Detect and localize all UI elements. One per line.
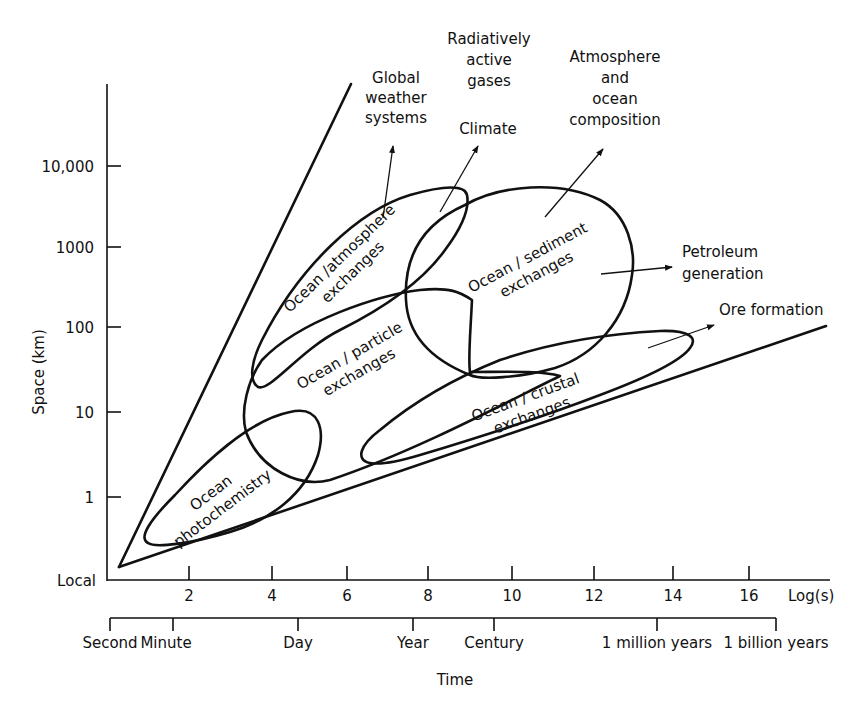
label-gases: gases bbox=[467, 72, 511, 90]
label-weather: weather bbox=[365, 89, 427, 107]
label-atmosphere-word: Atmosphere bbox=[570, 48, 661, 66]
x-tick-14: 14 bbox=[663, 587, 682, 605]
label-climate: Climate bbox=[459, 120, 517, 138]
time-tick-day: Day bbox=[283, 634, 313, 652]
region-labels: Ocean photochemistry Ocean /atmosphere e… bbox=[159, 201, 600, 551]
x-axis-unit-label: Log(s) bbox=[788, 587, 834, 605]
label-ore-formation: Ore formation bbox=[719, 301, 824, 319]
y-tick-1: 1 bbox=[84, 489, 94, 507]
time-tick-year: Year bbox=[396, 634, 430, 652]
x-tick-10: 10 bbox=[502, 587, 521, 605]
arrow-composition-icon bbox=[545, 149, 603, 217]
y-tick-1000: 1000 bbox=[56, 239, 94, 257]
time-tick-century: Century bbox=[464, 634, 524, 652]
label-generation: generation bbox=[682, 265, 764, 283]
label-composition: composition bbox=[569, 111, 660, 129]
y-tick-100: 100 bbox=[65, 319, 94, 337]
label-sediment: Ocean / sediment exchanges bbox=[465, 218, 599, 313]
scales-diagram: 10,000 1000 100 10 1 Local Space (km) 2 … bbox=[0, 0, 856, 710]
label-radiatively: Radiatively bbox=[447, 30, 530, 48]
label-ocean: ocean bbox=[592, 90, 637, 108]
time-tick-million-years: 1 million years bbox=[602, 634, 713, 652]
y-tick-local: Local bbox=[57, 572, 96, 590]
y-axis-label: Space (km) bbox=[30, 329, 48, 414]
label-crustal: Ocean / crustal exchanges bbox=[469, 369, 588, 443]
x-tick-4: 4 bbox=[267, 587, 277, 605]
x-tick-6: 6 bbox=[342, 587, 352, 605]
label-systems: systems bbox=[365, 109, 427, 127]
time-tick-billion-years: 1 billion years bbox=[723, 634, 828, 652]
time-tick-second: Second bbox=[82, 634, 137, 652]
arrow-ore-icon bbox=[648, 325, 714, 348]
arrow-petroleum-icon bbox=[601, 267, 672, 274]
time-tick-minute: Minute bbox=[140, 634, 191, 652]
region-ocean-particle bbox=[244, 289, 560, 482]
x-tick-12: 12 bbox=[584, 587, 603, 605]
x-tick-2: 2 bbox=[184, 587, 194, 605]
x-axis: 2 4 6 8 10 12 14 16 Log(s) bbox=[107, 566, 834, 605]
y-tick-10: 10 bbox=[75, 404, 94, 422]
time-axis-label: Time bbox=[436, 671, 474, 689]
label-and: and bbox=[601, 69, 629, 87]
y-axis: 10,000 1000 100 10 1 Local Space (km) bbox=[30, 84, 121, 590]
label-petroleum: Petroleum bbox=[682, 243, 758, 261]
label-active: active bbox=[466, 51, 512, 69]
x-tick-16: 16 bbox=[739, 587, 758, 605]
y-tick-10000: 10,000 bbox=[42, 158, 95, 176]
outcome-labels: Global weather systems Radiatively activ… bbox=[365, 30, 824, 319]
label-global: Global bbox=[372, 69, 420, 87]
time-axis: Second Minute Day Year Century 1 million… bbox=[82, 618, 828, 689]
label-particle: Ocean / particle exchanges bbox=[293, 318, 415, 410]
x-tick-8: 8 bbox=[423, 587, 433, 605]
